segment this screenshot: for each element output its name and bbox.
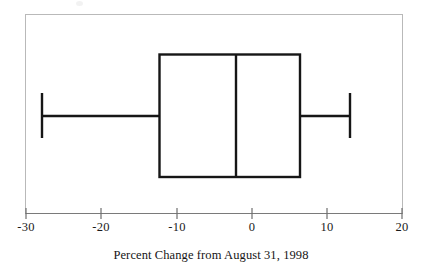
x-axis-title: Percent Change from August 31, 1998 [0, 248, 422, 263]
x-tick-label-0: 0 [249, 220, 255, 235]
x-tick-label-20: 20 [396, 220, 409, 235]
x-tick-label--10: -10 [168, 220, 185, 235]
boxplot-chart: -30 -20 -10 0 10 20 Percent Change from … [0, 0, 422, 272]
plot-frame [26, 15, 403, 214]
x-tick-label--20: -20 [92, 220, 109, 235]
boxplot-graphic [0, 0, 422, 272]
x-tick-label--30: -30 [17, 220, 34, 235]
x-tick-label-10: 10 [321, 220, 334, 235]
